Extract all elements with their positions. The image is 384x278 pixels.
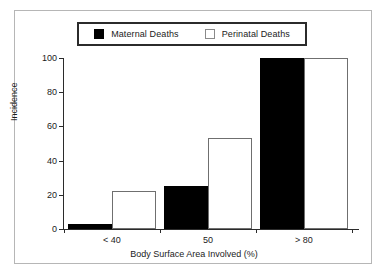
x-tick-label-2: > 80 [274, 235, 334, 245]
x-axis-title: Body Surface Area Involved (%) [15, 249, 373, 259]
y-tick-label-60: 60 [31, 121, 57, 131]
y-tick-label-40: 40 [31, 156, 57, 166]
x-tick-label-1: 50 [178, 235, 238, 245]
bar-maternal-50 [164, 186, 208, 229]
figure-frame: Maternal Deaths Perinatal Deaths Inciden… [14, 10, 372, 264]
x-tick-end [352, 229, 353, 233]
x-axis-line [59, 229, 359, 230]
y-tick-label-20: 20 [31, 190, 57, 200]
x-tick-1 [160, 229, 161, 233]
y-tick-label-80: 80 [31, 87, 57, 97]
plot-area [64, 58, 353, 229]
y-tick-label-100: 100 [31, 53, 57, 63]
y-tick-label-0: 0 [31, 224, 57, 234]
x-tick-2 [256, 229, 257, 233]
bar-perinatal-gt80 [304, 58, 348, 229]
plot: Incidence 100 80 60 40 20 0 < 40 50 > 80 [15, 11, 373, 265]
bar-perinatal-50 [208, 138, 252, 229]
y-axis-title: Incidence [9, 82, 19, 121]
x-tick-start [64, 229, 65, 233]
bar-maternal-lt40 [68, 224, 112, 229]
x-tick-label-0: < 40 [82, 235, 142, 245]
bar-perinatal-lt40 [112, 191, 156, 229]
bar-maternal-gt80 [260, 58, 304, 229]
